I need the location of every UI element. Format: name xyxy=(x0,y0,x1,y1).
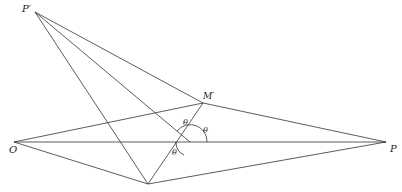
line-B-Mprime xyxy=(148,103,203,184)
line-P-Mprime xyxy=(203,103,386,142)
line-O-B xyxy=(14,142,148,184)
label-M-prime: M′ xyxy=(203,92,214,101)
theta-label-1: θ xyxy=(183,119,188,127)
line-Pprime-X xyxy=(35,12,190,142)
line-P-B xyxy=(148,142,386,184)
label-P: P xyxy=(390,144,397,154)
line-Pprime-Mprime xyxy=(35,12,203,103)
geometry-diagram: P′ M′ O P θ θ θ xyxy=(0,0,402,192)
theta-label-2: θ xyxy=(203,127,208,135)
label-P-prime: P′ xyxy=(22,4,31,14)
diagram-lines xyxy=(0,0,402,192)
theta-label-3: θ xyxy=(172,149,177,157)
line-O-Mprime xyxy=(14,103,203,142)
label-O: O xyxy=(9,145,17,155)
angle-arc-3 xyxy=(176,142,184,155)
line-Pprime-B xyxy=(35,12,148,184)
